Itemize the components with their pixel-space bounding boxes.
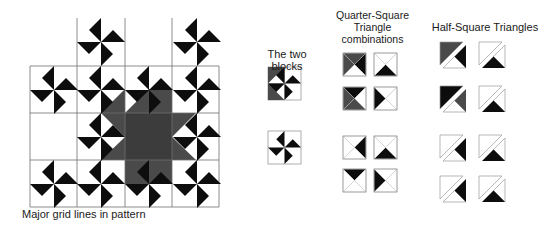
pinwheel-blade [89,66,101,90]
pinwheel [173,18,221,66]
qst-block [374,53,397,76]
qst-title-line-3: combinations [325,33,420,45]
pinwheel [173,66,221,114]
half-square-triangle-blocks [440,42,505,202]
hst-block [440,42,466,68]
pinwheel-blade [54,172,78,184]
qst-block [374,136,397,159]
pinwheel-blade [77,184,101,196]
pinwheel-blade [197,137,209,161]
hst-block [479,176,505,202]
pinwheel-blade [54,90,66,114]
pinwheel-blade [89,160,101,184]
pinwheel-blade [185,18,197,42]
qst-block [343,169,366,192]
pinwheel-blade [89,18,101,42]
pinwheel-blade [54,78,78,90]
pinwheel-blade [42,66,54,90]
star-center-square [125,113,172,160]
pinwheel-blade [197,125,221,137]
pinwheel-blade [54,184,66,208]
pinwheel-blade [30,90,54,102]
pinwheel-blade [101,184,113,208]
pinwheel-blade [125,184,149,196]
hst-block [440,86,466,112]
hst-block [440,135,466,161]
pinwheel-blade [197,78,221,90]
pinwheel-blade [197,184,209,208]
pinwheel-blade [173,42,197,54]
qst-title-line-1: Quarter-Square [325,9,420,21]
pinwheel-blade [197,172,221,184]
qst-block [343,136,366,159]
pinwheel-blade [197,42,209,66]
pinwheel [77,18,125,66]
hst-title: Half-Square Triangles [425,21,545,33]
pinwheel-blade [173,184,197,196]
pinwheel-blade [197,90,209,114]
hst-block [479,86,505,112]
pinwheel-blade [77,90,101,102]
pinwheel-blade [101,30,125,42]
hst-block [479,135,505,161]
qst-block [374,169,397,192]
qst-block [343,87,366,110]
quarter-square-triangle-blocks [343,53,397,192]
two-blocks-illustration [268,67,301,164]
pinwheel-block [268,131,301,164]
main-pattern-caption: Major grid lines in pattern [22,208,146,220]
pinwheel-blade [77,42,101,54]
pinwheel-blade [149,78,173,90]
qst-title: Quarter-Square Triangle combinations [325,9,420,45]
pinwheel-blade [101,42,113,66]
pinwheel-blade [101,78,125,90]
two-blocks-title: The two blocks [252,48,322,72]
pinwheel-blade [77,137,101,149]
pinwheel [30,160,78,208]
pinwheel-blade [173,90,197,102]
pinwheel-blade [185,160,197,184]
qst-block [343,53,366,76]
quilt-diagram [0,0,556,230]
pinwheel-blade [197,30,221,42]
pinwheel [173,160,221,208]
pinwheel-blade [30,184,54,196]
qst-title-line-2: Triangle [325,21,420,33]
pinwheel [77,160,125,208]
pinwheel-blade [149,184,161,208]
pinwheel-blade [42,160,54,184]
hst-block [440,176,466,202]
pinwheel-blade [101,172,125,184]
hst-block [479,42,505,68]
pinwheel-blade [89,113,101,137]
pinwheel [30,66,78,114]
pinwheel-blade [137,66,149,90]
qst-block [374,87,397,110]
pinwheel-blade [185,66,197,90]
